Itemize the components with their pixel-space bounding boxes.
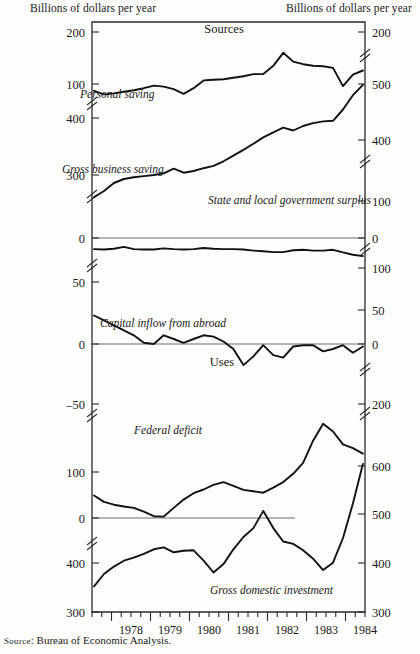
uses-right-400-label: 400 [372, 557, 391, 571]
middle-right-0-label: 0 [372, 338, 378, 352]
source-note-text: : Bureau of Economic Analysis. [31, 634, 171, 646]
middle-left-50-label: 50 [73, 276, 86, 290]
chart-axes-layer: 2001004003000500‒50100040030020050040010… [65, 22, 391, 637]
x-tick-label-1983: 1983 [314, 623, 338, 637]
series-label-gross-business-saving: Gross business saving [62, 163, 164, 176]
sources-right-100-label: 100 [372, 195, 391, 209]
source-note: Source: Bureau of Economic Analysis. [4, 634, 171, 646]
uses-left-0-label: 0 [79, 512, 85, 526]
series-label-personal-saving: Personal saving [79, 88, 155, 101]
x-tick-label-1981: 1981 [236, 623, 260, 637]
middle-left-m50-label: ‒50 [65, 398, 85, 412]
series-federal-deficit [94, 424, 363, 517]
x-tick-label-1980: 1980 [197, 623, 221, 637]
series-gross-business-saving [94, 85, 363, 197]
uses-right-300-label: 300 [372, 606, 391, 620]
uses-right-600-label: 600 [372, 460, 391, 474]
middle-right-50-label: 50 [372, 304, 385, 318]
uses-left-100-label: 100 [66, 466, 85, 480]
uses-left-400-label: 400 [66, 557, 85, 571]
uses-right-500-label: 500 [372, 508, 391, 522]
chart-annotations-layer: SourcesUsesPersonal savingGross business… [62, 22, 371, 596]
sources-right-500-label: 500 [372, 78, 391, 92]
chart-canvas: 2001004003000500‒50100040030020050040010… [0, 0, 420, 654]
sources-left-0-label: 0 [79, 232, 85, 246]
series-gross-domestic-investment [94, 464, 363, 586]
x-tick-label-1984: 1984 [353, 623, 377, 637]
panel-label-sources: Sources [204, 22, 244, 36]
middle-left-0-label: 0 [79, 338, 85, 352]
uses-left-300-label: 300 [66, 606, 85, 620]
sources-right-200-label: 200 [372, 26, 391, 40]
x-tick-label-1982: 1982 [275, 623, 299, 637]
sources-right-400-label: 400 [372, 134, 391, 148]
series-label-federal-deficit: Federal deficit [133, 424, 203, 437]
sources-left-400-label: 400 [66, 112, 85, 126]
series-label-state-local-surplus: State and local government surplus [208, 194, 371, 207]
uses-right-200-label: 200 [372, 398, 391, 412]
sources-left-200-label: 200 [66, 26, 85, 40]
panel-label-uses: Uses [210, 355, 234, 369]
sources-right-0-label: 0 [372, 232, 378, 246]
series-state-local-surplus [94, 247, 363, 256]
middle-right-100-label: 100 [372, 262, 391, 276]
source-note-label: Source [4, 636, 31, 646]
series-label-capital-inflow: Capital inflow from abroad [100, 317, 226, 330]
series-label-gross-domestic-investment: Gross domestic investment [210, 584, 334, 596]
